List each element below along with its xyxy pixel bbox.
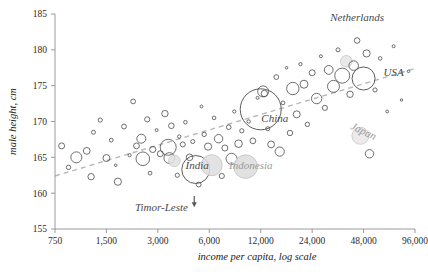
data-point bbox=[157, 151, 163, 157]
data-point bbox=[169, 155, 181, 167]
data-point bbox=[327, 80, 339, 92]
x-axis-tick-label: 1,500 bbox=[96, 236, 118, 246]
data-point bbox=[128, 154, 131, 157]
y-axis-tick-label: 155 bbox=[33, 224, 48, 234]
data-point bbox=[261, 90, 267, 96]
x-axis-tick-label: 96,000 bbox=[402, 236, 428, 246]
data-point bbox=[145, 117, 150, 122]
data-point bbox=[305, 122, 309, 126]
x-axis-tick-label: 48,000 bbox=[351, 236, 377, 246]
data-point bbox=[202, 132, 206, 136]
x-axis-title: income per capita, log scale bbox=[198, 251, 317, 262]
data-point bbox=[148, 171, 152, 175]
data-point bbox=[275, 147, 284, 156]
data-point bbox=[222, 145, 228, 151]
data-point bbox=[336, 48, 340, 52]
data-point bbox=[347, 91, 353, 97]
data-point bbox=[274, 75, 279, 80]
data-point bbox=[324, 66, 333, 75]
data-point bbox=[114, 164, 117, 167]
data-point bbox=[250, 138, 256, 144]
data-point bbox=[240, 89, 281, 130]
data-point bbox=[256, 96, 259, 99]
data-point bbox=[131, 99, 136, 104]
data-point bbox=[386, 110, 389, 113]
data-point bbox=[400, 99, 402, 101]
x-axis-tick-label: 3,000 bbox=[147, 236, 169, 246]
data-point bbox=[114, 178, 121, 185]
data-point bbox=[98, 118, 102, 122]
data-point bbox=[200, 105, 203, 108]
data-point bbox=[178, 135, 181, 138]
data-point bbox=[309, 70, 315, 76]
data-point bbox=[363, 50, 370, 57]
data-point bbox=[335, 68, 350, 83]
data-point bbox=[287, 82, 299, 94]
data-point bbox=[240, 129, 244, 133]
data-point bbox=[212, 116, 216, 120]
data-point bbox=[319, 55, 322, 58]
data-point bbox=[300, 80, 308, 88]
data-point bbox=[407, 70, 410, 73]
data-point bbox=[365, 150, 373, 158]
data-point bbox=[226, 125, 231, 130]
data-point bbox=[155, 129, 158, 132]
data-point bbox=[219, 173, 224, 178]
data-point bbox=[109, 138, 113, 142]
data-point bbox=[88, 173, 94, 179]
data-point bbox=[340, 56, 352, 68]
data-point bbox=[134, 143, 140, 149]
data-point bbox=[233, 110, 236, 113]
country-label-usa: USA bbox=[384, 66, 404, 78]
data-point bbox=[204, 143, 211, 150]
data-point bbox=[392, 45, 395, 48]
data-point bbox=[122, 124, 127, 129]
data-point bbox=[354, 38, 360, 44]
chart-canvas: 1551601651701751801857501,5003,0006,0001… bbox=[0, 0, 428, 275]
data-point bbox=[281, 101, 285, 105]
data-point bbox=[214, 135, 222, 143]
data-point bbox=[66, 165, 70, 169]
data-point bbox=[162, 110, 168, 116]
bubble-chart: 1551601651701751801857501,5003,0006,0001… bbox=[0, 0, 428, 275]
country-label-china: China bbox=[261, 112, 288, 124]
data-point bbox=[285, 66, 288, 69]
data-point bbox=[103, 155, 110, 162]
data-point bbox=[299, 63, 302, 66]
data-point bbox=[83, 147, 90, 154]
data-point bbox=[59, 143, 65, 149]
data-point bbox=[136, 152, 150, 166]
annotation-arrow-head bbox=[192, 202, 197, 207]
x-axis-tick-label: 750 bbox=[48, 236, 63, 246]
data-point bbox=[235, 140, 243, 148]
country-labels-layer: NetherlandsUSAJapanChinaIndiaIndonesiaTi… bbox=[135, 11, 404, 213]
country-label-india: India bbox=[185, 159, 210, 171]
country-label-netherlands: Netherlands bbox=[329, 11, 384, 23]
y-axis-tick-label: 170 bbox=[33, 117, 48, 127]
x-axis-tick-label: 6,000 bbox=[199, 236, 221, 246]
y-axis-tick-label: 180 bbox=[33, 45, 48, 55]
y-axis-tick-label: 185 bbox=[33, 9, 48, 19]
data-point bbox=[137, 134, 146, 143]
data-point bbox=[191, 140, 195, 144]
y-axis-tick-label: 160 bbox=[33, 189, 48, 199]
data-point bbox=[169, 123, 175, 129]
y-axis-tick-label: 175 bbox=[33, 81, 48, 91]
country-label-timor-leste: Timor-Leste bbox=[135, 201, 188, 213]
data-point bbox=[71, 152, 82, 163]
data-point bbox=[91, 130, 95, 134]
data-point bbox=[268, 141, 275, 148]
y-axis-tick-label: 165 bbox=[33, 153, 48, 163]
data-point bbox=[352, 67, 375, 90]
x-axis-tick-label: 24,000 bbox=[299, 236, 325, 246]
data-point bbox=[175, 173, 179, 177]
data-point bbox=[322, 105, 327, 110]
data-point bbox=[378, 57, 382, 61]
data-point bbox=[247, 120, 250, 123]
data-point bbox=[373, 88, 377, 92]
data-point bbox=[184, 120, 188, 124]
data-point bbox=[180, 142, 185, 147]
country-label-indonesia: Indonesia bbox=[228, 159, 273, 171]
data-point bbox=[293, 111, 300, 118]
data-point bbox=[287, 130, 292, 135]
